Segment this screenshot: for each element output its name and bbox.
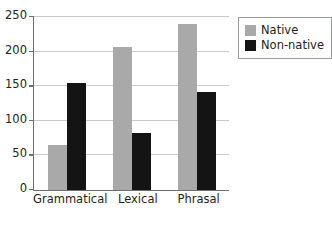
bar-group: [99, 17, 164, 190]
bar-non-native: [197, 92, 216, 190]
bar-chart: 050100150200250 GrammaticalLexicalPhrasa…: [0, 0, 332, 225]
bar-native: [113, 47, 132, 190]
bar-native: [48, 145, 67, 190]
y-axis-tick-label: 100: [5, 114, 27, 126]
x-axis-label-lexical: Lexical: [107, 193, 168, 206]
bar-group: [34, 17, 99, 190]
plot-area: 050100150200250: [33, 17, 229, 191]
non-native-swatch-icon: [245, 40, 256, 51]
y-axis-tick-label: 150: [5, 79, 27, 91]
native-swatch-icon: [245, 25, 256, 36]
y-axis-tick-label: 50: [12, 149, 27, 161]
legend-item-non-native: Non-native: [245, 38, 324, 53]
y-axis-tick-label: 200: [5, 45, 27, 57]
legend-label-non-native: Non-native: [261, 40, 324, 52]
x-axis-label-phrasal: Phrasal: [168, 193, 229, 206]
bar-groups: [34, 17, 229, 190]
bar-non-native: [67, 83, 86, 190]
x-axis-label-grammatical: Grammatical: [33, 193, 107, 206]
x-axis-labels: GrammaticalLexicalPhrasal: [33, 193, 229, 206]
bar-non-native: [132, 133, 151, 190]
bar-native: [178, 24, 197, 190]
y-axis-tick-label: 250: [5, 10, 27, 22]
legend-label-native: Native: [261, 25, 298, 37]
chart-legend: Native Non-native: [238, 17, 332, 59]
legend-item-native: Native: [245, 23, 324, 38]
y-axis-tick-label: 0: [20, 183, 27, 195]
bar-group: [164, 17, 229, 190]
